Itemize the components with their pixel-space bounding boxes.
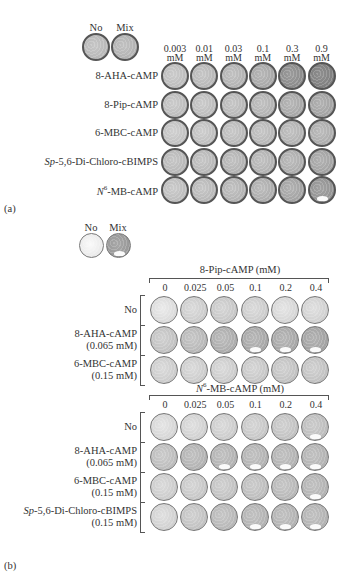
culture-well xyxy=(106,233,131,258)
culture-well xyxy=(180,326,208,354)
culture-well xyxy=(220,91,248,119)
column-conc: 0.05 xyxy=(210,282,240,293)
panel-label-b: (b) xyxy=(4,560,16,571)
culture-well xyxy=(301,326,329,354)
culture-well xyxy=(308,119,336,147)
row-label: No xyxy=(124,421,137,433)
culture-well xyxy=(210,413,238,441)
culture-well xyxy=(180,503,208,531)
culture-well xyxy=(210,503,238,531)
control-label: Mix xyxy=(105,222,131,233)
culture-well xyxy=(278,176,306,204)
culture-well xyxy=(180,443,208,471)
culture-well xyxy=(271,296,299,324)
culture-well xyxy=(308,91,336,119)
column-conc: 0 xyxy=(150,282,180,293)
culture-well xyxy=(249,119,277,147)
row-bracket xyxy=(140,502,145,533)
row-label: 8-Pip-cAMP xyxy=(104,99,158,110)
culture-well xyxy=(271,443,299,471)
culture-well xyxy=(278,62,306,90)
culture-well xyxy=(190,91,218,119)
culture-well xyxy=(241,443,269,471)
culture-well xyxy=(161,176,189,204)
culture-well xyxy=(301,473,329,501)
culture-well xyxy=(278,148,306,176)
row-label: 6-MBC-cAMP xyxy=(74,475,137,487)
culture-well xyxy=(210,473,238,501)
culture-well xyxy=(210,356,238,384)
row-bracket xyxy=(140,325,145,356)
culture-well xyxy=(180,413,208,441)
culture-well xyxy=(241,296,269,324)
culture-well xyxy=(220,119,248,147)
culture-well xyxy=(301,356,329,384)
column-conc: 0.025 xyxy=(180,282,210,293)
culture-well xyxy=(271,326,299,354)
control-label: No xyxy=(82,22,110,33)
row-label: 6-MBC-cAMP xyxy=(95,127,158,138)
column-conc: 0.05 xyxy=(210,399,240,410)
row-label-conc: (0.065 mM) xyxy=(86,340,137,352)
panel-label-a: (a) xyxy=(4,203,16,214)
row-bracket xyxy=(140,355,145,386)
row-label: 8-AHA-cAMP xyxy=(75,445,137,457)
culture-well xyxy=(249,91,277,119)
row-label-conc: (0.15 mM) xyxy=(92,487,138,499)
row-label: Sp-5,6-Di-Chloro-cBIMPS xyxy=(45,156,158,167)
culture-well xyxy=(161,91,189,119)
sub-panel-title: 8-Pip-cAMP (mM) xyxy=(150,264,330,275)
culture-well xyxy=(271,503,299,531)
culture-well xyxy=(241,503,269,531)
column-conc: 0.025 xyxy=(180,399,210,410)
culture-well xyxy=(220,176,248,204)
column-conc: 0.4 xyxy=(301,399,331,410)
culture-well xyxy=(308,148,336,176)
row-bracket xyxy=(140,295,145,326)
row-label: No xyxy=(124,304,137,316)
sub-panel-title: N6-MB-cAMP (mM) xyxy=(150,381,330,394)
culture-well xyxy=(150,326,178,354)
culture-well xyxy=(161,119,189,147)
control-label: Mix xyxy=(111,22,139,33)
culture-well xyxy=(249,176,277,204)
culture-well xyxy=(271,473,299,501)
column-conc: 0.4 xyxy=(301,282,331,293)
column-conc: 0 xyxy=(150,399,180,410)
culture-well xyxy=(150,443,178,471)
culture-well xyxy=(210,326,238,354)
row-label: 8-AHA-cAMP xyxy=(75,328,137,340)
culture-well xyxy=(161,148,189,176)
culture-well xyxy=(210,443,238,471)
culture-well xyxy=(241,326,269,354)
row-label-conc: (0.15 mM) xyxy=(92,517,138,529)
culture-well xyxy=(210,296,238,324)
row-label-conc: (0.065 mM) xyxy=(86,457,137,469)
culture-well xyxy=(180,356,208,384)
row-bracket xyxy=(140,412,145,443)
row-label: Sp-5,6-Di-Chloro-cBIMPS xyxy=(24,505,137,517)
culture-well xyxy=(301,413,329,441)
culture-well xyxy=(220,62,248,90)
culture-well xyxy=(190,119,218,147)
culture-well xyxy=(241,413,269,441)
culture-well xyxy=(241,473,269,501)
culture-well xyxy=(308,176,336,204)
row-bracket xyxy=(140,472,145,503)
column-conc: 0.1 xyxy=(241,399,271,410)
culture-well xyxy=(190,62,218,90)
culture-well xyxy=(301,443,329,471)
culture-well xyxy=(150,503,178,531)
culture-well xyxy=(180,296,208,324)
culture-well xyxy=(271,356,299,384)
culture-well xyxy=(150,413,178,441)
culture-well xyxy=(190,148,218,176)
column-conc: 0.1 xyxy=(241,282,271,293)
row-label: N6-MB-cAMP xyxy=(97,184,158,197)
control-label: No xyxy=(78,222,104,233)
culture-well xyxy=(180,473,208,501)
culture-well xyxy=(150,296,178,324)
culture-well xyxy=(301,503,329,531)
culture-well xyxy=(161,62,189,90)
row-bracket xyxy=(140,442,145,473)
